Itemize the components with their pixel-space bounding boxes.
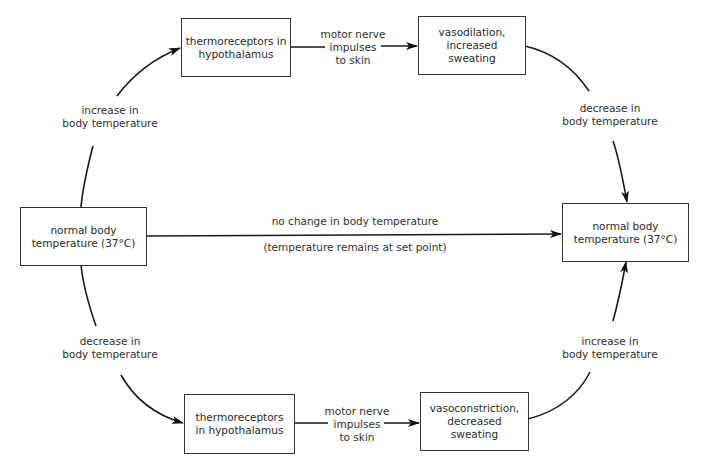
- arc-effect-top-to-label: [525, 46, 589, 91]
- node-normal-temperature-right: normal body temperature (37°C): [562, 203, 689, 262]
- label-decrease-top-right: decrease in body temperature: [555, 102, 665, 128]
- label-increase-top-left: increase in body temperature: [55, 104, 165, 130]
- arc-top-label-to-thermo-top: [117, 48, 180, 96]
- arc-left-box-to-top-label: [81, 146, 93, 207]
- arrow-center-no-change: [146, 234, 561, 236]
- label-motor-nerve-top: motor nerve impulses to skin: [320, 28, 386, 67]
- arc-effect-bottom-to-label: [528, 372, 590, 419]
- homeostasis-diagram: normal body temperature (37°C) normal bo…: [0, 0, 702, 469]
- label-increase-bottom-right: increase in body temperature: [555, 335, 665, 361]
- label-motor-nerve-bottom: motor nerve impulses to skin: [324, 405, 390, 444]
- arc-left-box-to-bottom-label: [81, 265, 96, 326]
- arc-label-to-right-box: [613, 141, 627, 202]
- label-decrease-bottom-left: decrease in body temperature: [55, 335, 165, 361]
- label-no-change: no change in body temperature: [230, 215, 480, 228]
- node-thermoreceptors-bottom: thermoreceptors in hypothalamus: [184, 394, 295, 454]
- arc-bottom-label-to-thermo-bottom: [121, 375, 183, 423]
- node-vasoconstriction: vasoconstriction, decreased sweating: [420, 392, 529, 451]
- node-thermoreceptors-top: thermoreceptors in hypothalamus: [181, 18, 291, 77]
- node-vasodilation: vasodilation, increased sweating: [418, 16, 526, 75]
- arc-label-to-right-box-bottom: [613, 262, 626, 321]
- label-set-point: (temperature remains at set point): [230, 241, 480, 254]
- node-normal-temperature-left: normal body temperature (37°C): [20, 207, 147, 266]
